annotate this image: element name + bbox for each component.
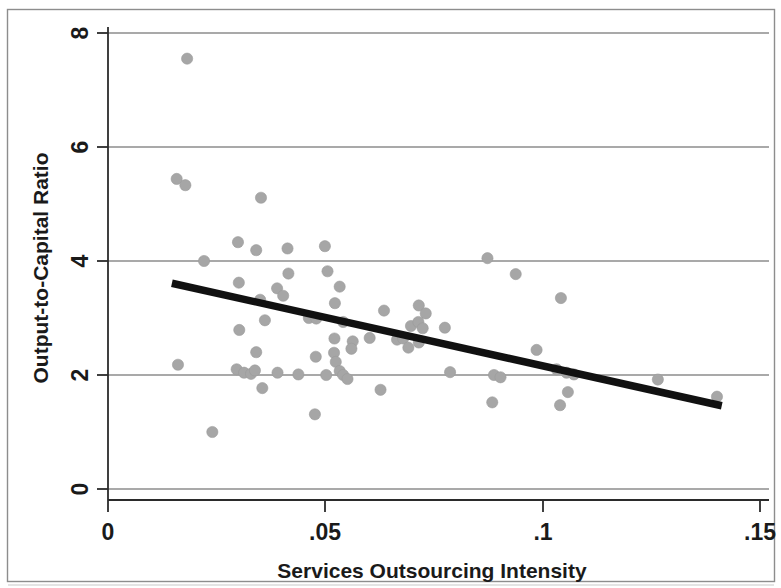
scatter-point xyxy=(310,351,321,362)
regression-fit-line xyxy=(172,283,722,406)
scatter-point xyxy=(378,305,389,316)
scatter-point xyxy=(321,369,332,380)
scatter-point xyxy=(322,266,333,277)
scatter-point xyxy=(417,323,428,334)
scatter-markers xyxy=(171,53,722,438)
scatter-point xyxy=(180,180,191,191)
scatter-point xyxy=(562,387,573,398)
plot-canvas: 8 6 4 2 0 0 .05 .1 .15 Output-to-Capital… xyxy=(0,0,781,588)
scatter-point xyxy=(172,359,183,370)
scatter-point xyxy=(444,367,455,378)
scatter-point xyxy=(403,342,414,353)
scatter-point xyxy=(319,241,330,252)
scatter-point xyxy=(278,290,289,301)
scatter-point xyxy=(487,397,498,408)
y-tick-label-6: 6 xyxy=(67,141,93,154)
y-tick-labels: 8 6 4 2 0 xyxy=(67,26,93,495)
y-tick-label-2: 2 xyxy=(67,369,93,382)
y-tick-label-4: 4 xyxy=(67,254,93,267)
scatter-point xyxy=(439,322,450,333)
scatter-point xyxy=(255,192,266,203)
scatter-point xyxy=(375,384,386,395)
scatter-point xyxy=(555,292,566,303)
scatter-point xyxy=(251,347,262,358)
figure-frame xyxy=(8,10,775,582)
scatter-plot-figure: 8 6 4 2 0 0 .05 .1 .15 Output-to-Capital… xyxy=(0,0,781,588)
scatter-point xyxy=(334,281,345,292)
scatter-point xyxy=(282,243,293,254)
scatter-point xyxy=(232,237,243,248)
x-axis-title: Services Outsourcing Intensity xyxy=(277,559,587,582)
scatter-point xyxy=(495,372,506,383)
x-tick-labels: 0 .05 .1 .15 xyxy=(102,519,777,545)
x-tick-label-005: .05 xyxy=(309,519,341,545)
scatter-point xyxy=(259,315,270,326)
scatter-point xyxy=(182,53,193,64)
scatter-point xyxy=(652,374,663,385)
y-tick-label-8: 8 xyxy=(67,26,93,39)
scatter-point xyxy=(554,400,565,411)
scatter-point xyxy=(346,343,357,354)
y-axis-title: Output-to-Capital Ratio xyxy=(29,153,52,384)
scatter-point xyxy=(234,324,245,335)
scatter-point xyxy=(342,373,353,384)
x-axis xyxy=(108,500,769,512)
scatter-point xyxy=(510,269,521,280)
scatter-point xyxy=(207,426,218,437)
scatter-point xyxy=(198,255,209,266)
y-axis xyxy=(97,27,108,500)
scatter-point xyxy=(364,332,375,343)
scatter-point xyxy=(272,367,283,378)
x-tick-label-01: .1 xyxy=(533,519,552,545)
scatter-point xyxy=(309,409,320,420)
scatter-point xyxy=(249,365,260,376)
scatter-point xyxy=(482,253,493,264)
scatter-point xyxy=(293,369,304,380)
x-tick-label-015: .15 xyxy=(744,519,776,545)
scatter-point xyxy=(251,245,262,256)
scatter-point xyxy=(233,277,244,288)
scatter-point xyxy=(531,344,542,355)
scatter-point xyxy=(283,268,294,279)
x-tick-label-0: 0 xyxy=(102,519,115,545)
scatter-point xyxy=(329,298,340,309)
scatter-point xyxy=(329,333,340,344)
regression-line xyxy=(172,283,722,406)
scatter-point xyxy=(257,383,268,394)
y-tick-label-0: 0 xyxy=(67,483,93,496)
